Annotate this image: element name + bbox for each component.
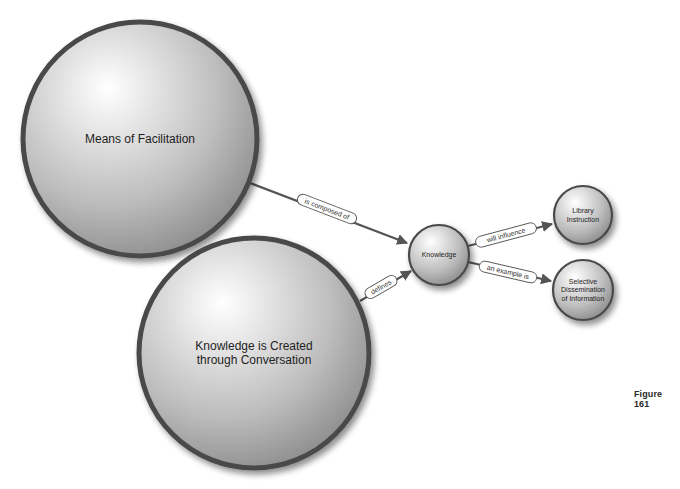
node-library[interactable]: LibraryInstruction — [554, 186, 612, 244]
node-sdi[interactable]: SelectiveDisseminationof Information — [553, 260, 613, 320]
node-label: Knowledge — [422, 251, 457, 259]
node-label: Instruction — [567, 216, 599, 223]
node-label: of Information — [562, 295, 605, 302]
node-means[interactable]: Means of Facilitation — [23, 22, 257, 256]
node-label: Library — [572, 207, 594, 215]
edge-label-0: is composed of — [296, 193, 358, 226]
node-label: Selective — [569, 278, 598, 285]
node-label: Dissemination — [561, 286, 605, 293]
edge-label-3: an example is — [478, 260, 538, 284]
node-label: through Conversation — [197, 353, 312, 367]
concept-map: Means of FacilitationKnowledge is Create… — [0, 0, 680, 489]
nodes-layer: Means of FacilitationKnowledge is Create… — [23, 22, 613, 468]
node-created[interactable]: Knowledge is Createdthrough Conversation — [139, 238, 369, 468]
node-knowledge[interactable]: Knowledge — [409, 225, 469, 285]
node-label: Knowledge is Created — [195, 339, 312, 353]
node-label: Means of Facilitation — [85, 132, 195, 146]
figure-caption: Figure 161 — [634, 389, 680, 409]
edge-label-1: defines — [363, 273, 399, 300]
edge-label-2: will influence — [474, 222, 537, 249]
